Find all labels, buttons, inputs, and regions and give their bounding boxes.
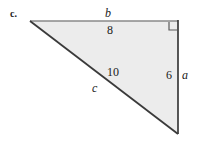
right-triangle-figure [0, 0, 208, 144]
side-label-b: b [105, 7, 111, 19]
side-label-a: a [182, 69, 188, 81]
side-measure-hypotenuse: 10 [107, 66, 119, 78]
side-measure-top: 8 [107, 24, 113, 36]
side-measure-right: 6 [166, 69, 172, 81]
side-label-c: c [92, 82, 97, 94]
part-label: c. [10, 9, 17, 19]
